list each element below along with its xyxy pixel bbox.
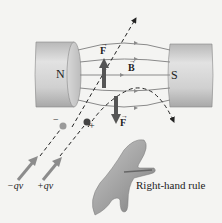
right-hand-illustration [92, 140, 155, 215]
positive-velocity-arrow [43, 157, 62, 180]
south-pole-label: S [171, 69, 178, 81]
right-hand-rule-caption: Right-hand rule [136, 180, 205, 191]
vector-arrow-icon: → [129, 58, 136, 65]
vector-arrow-icon: → [121, 113, 128, 120]
negative-velocity-arrow [18, 156, 38, 180]
positive-velocity-label: +qv [37, 181, 53, 191]
north-pole-label: N [56, 68, 65, 80]
force-down-label: → F [120, 118, 126, 128]
positive-charge-path [88, 88, 174, 127]
positive-lead-in [60, 126, 84, 156]
force-up-arrow [99, 58, 109, 88]
negative-sign: − [53, 115, 59, 125]
force-up-label: → F [100, 46, 106, 56]
negative-velocity-label: −qv [7, 181, 23, 191]
field-vector-label: → B [128, 63, 135, 73]
negative-charge [60, 123, 67, 130]
vector-arrow-icon: → [101, 41, 108, 48]
negative-lead-in [40, 130, 60, 156]
positive-sign: + [89, 121, 95, 131]
magnetic-force-diagram: N S → B → F → F − + −qv +qv Right-hand r… [0, 0, 222, 223]
